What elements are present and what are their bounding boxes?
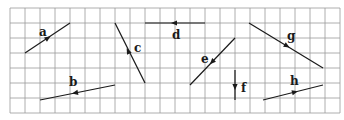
- vector-label: h: [290, 74, 299, 88]
- vector-g: g: [249, 23, 323, 68]
- vector-label: f: [241, 81, 247, 95]
- vector-label: d: [172, 28, 181, 42]
- vector-h: h: [263, 74, 323, 100]
- arrowhead-icon: [72, 90, 78, 95]
- vector-b: b: [40, 75, 115, 100]
- vector-label: c: [134, 41, 141, 55]
- vector-e: e: [190, 38, 235, 85]
- vector-label: a: [39, 25, 47, 39]
- arrowhead-icon: [171, 20, 177, 25]
- vector-label: g: [287, 29, 296, 43]
- vector-d: d: [145, 20, 205, 42]
- vector-grid-diagram: abcdefgh: [0, 0, 344, 120]
- vector-label: b: [69, 75, 77, 89]
- arrowhead-icon: [232, 84, 237, 90]
- vector-f: f: [232, 70, 247, 100]
- vector-label: e: [201, 52, 209, 66]
